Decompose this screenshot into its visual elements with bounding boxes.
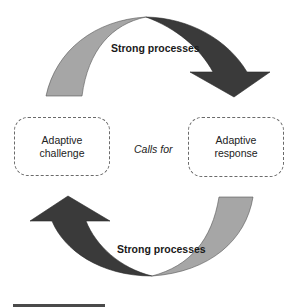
top-arrow-head — [146, 17, 270, 97]
bottom-arrow-head — [30, 196, 152, 276]
top-arrow-tail — [46, 17, 146, 96]
adaptive-response-box: Adaptive response — [188, 117, 284, 177]
top-arrow-label: Strong processes — [111, 42, 200, 54]
right-box-line1: Adaptive — [214, 134, 257, 147]
left-box-line2: challenge — [40, 147, 85, 160]
top-arrow — [46, 17, 270, 97]
adaptive-challenge-box: Adaptive challenge — [14, 117, 110, 176]
right-box-line2: response — [214, 147, 257, 160]
bottom-arrow-label: Strong processes — [117, 243, 206, 255]
bottom-arrow — [30, 196, 253, 276]
calls-for-label: Calls for — [134, 143, 173, 155]
bottom-arrow-tail — [152, 197, 253, 276]
left-box-line1: Adaptive — [40, 134, 85, 147]
